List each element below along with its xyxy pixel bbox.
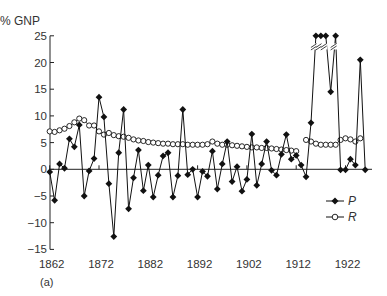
data-point-r	[151, 140, 156, 145]
data-point-p	[229, 178, 236, 185]
y-tick-label: −15	[27, 243, 47, 255]
x-tick-label: 1862	[39, 258, 65, 270]
y-tick-label: −5	[34, 190, 47, 202]
data-point-p	[101, 114, 108, 121]
data-point-r	[303, 137, 308, 142]
data-point-p	[258, 161, 265, 168]
data-point-r	[200, 142, 205, 147]
data-point-r	[328, 142, 333, 147]
legend: P R	[326, 194, 357, 224]
data-point-r	[205, 142, 210, 147]
data-point-r	[353, 139, 358, 144]
y-tick-label: 20	[34, 57, 47, 69]
data-point-r	[239, 144, 244, 149]
data-point-r	[47, 129, 52, 134]
data-point-p	[209, 148, 216, 155]
data-point-p	[125, 205, 132, 212]
data-point-p	[135, 147, 142, 154]
y-tick-label: 10	[34, 110, 47, 122]
data-point-p	[71, 143, 78, 150]
data-point-r	[343, 136, 348, 141]
data-point-p	[308, 119, 315, 126]
data-point-p	[263, 138, 270, 145]
data-point-r	[244, 144, 249, 149]
data-point-r	[215, 141, 220, 146]
data-point-p	[303, 173, 310, 180]
x-tick-label: 1902	[236, 258, 262, 270]
data-point-r	[67, 123, 72, 128]
data-point-p	[278, 151, 285, 158]
data-point-p	[170, 194, 177, 201]
data-point-p	[219, 161, 226, 168]
data-point-r	[146, 139, 151, 144]
data-point-p	[322, 32, 329, 39]
data-point-r	[254, 145, 259, 150]
x-tick-label: 1882	[138, 258, 164, 270]
data-point-r	[91, 123, 96, 128]
data-point-p	[244, 176, 251, 183]
data-point-r	[318, 142, 323, 147]
data-point-r	[274, 146, 279, 151]
data-point-r	[190, 142, 195, 147]
x-tick-label: 1892	[187, 258, 213, 270]
series-p	[46, 32, 368, 240]
data-point-r	[323, 142, 328, 147]
data-point-p	[342, 166, 349, 173]
data-point-p	[357, 56, 364, 63]
legend-marker-r-icon	[332, 214, 338, 220]
data-point-p	[51, 197, 58, 204]
data-point-p	[214, 186, 221, 193]
data-point-r	[126, 135, 131, 140]
data-point-p	[96, 94, 103, 101]
data-point-r	[313, 141, 318, 146]
data-point-r	[82, 118, 87, 123]
data-point-r	[180, 142, 185, 147]
data-point-p	[66, 135, 73, 142]
y-tick-label: 5	[41, 137, 47, 149]
data-point-r	[259, 145, 264, 150]
data-point-r	[57, 128, 62, 133]
data-point-p	[130, 174, 137, 181]
data-point-r	[72, 120, 77, 125]
y-tick-label: 25	[34, 30, 47, 42]
data-point-r	[358, 136, 363, 141]
x-tick-label: 1912	[285, 258, 311, 270]
data-point-r	[230, 143, 235, 148]
data-point-r	[170, 142, 175, 147]
data-point-p	[145, 162, 152, 169]
data-point-p	[248, 131, 255, 138]
data-point-p	[115, 149, 122, 156]
data-point-r	[220, 142, 225, 147]
data-point-r	[234, 143, 239, 148]
data-point-r	[338, 137, 343, 142]
data-point-r	[333, 142, 338, 147]
data-point-r	[87, 123, 92, 128]
data-point-r	[136, 138, 141, 143]
legend-marker-p-icon	[331, 197, 338, 204]
data-point-p	[179, 106, 186, 113]
y-tick-label: 0	[41, 163, 47, 175]
data-point-p	[86, 168, 93, 175]
data-point-r	[111, 133, 116, 138]
legend-label-r: R	[348, 210, 357, 224]
data-point-p	[239, 188, 246, 195]
data-point-r	[195, 142, 200, 147]
y-tick-label: −10	[27, 217, 47, 229]
data-point-r	[348, 137, 353, 142]
data-point-p	[194, 194, 201, 201]
data-point-r	[165, 141, 170, 146]
data-point-p	[81, 193, 88, 200]
data-point-p	[298, 162, 305, 169]
data-point-r	[210, 139, 215, 144]
data-point-p	[110, 233, 117, 240]
data-point-p	[105, 180, 112, 187]
data-point-p	[253, 182, 260, 189]
y-tick-label: 15	[34, 83, 47, 95]
data-point-r	[284, 147, 289, 152]
data-point-r	[269, 146, 274, 151]
data-point-p	[120, 106, 127, 113]
line-chart: % GNP −15−10−505101520251862187218821892…	[0, 0, 387, 296]
data-point-r	[160, 141, 165, 146]
data-point-r	[62, 126, 67, 131]
axis-ticks: −15−10−505101520251862187218821892190219…	[27, 30, 360, 270]
